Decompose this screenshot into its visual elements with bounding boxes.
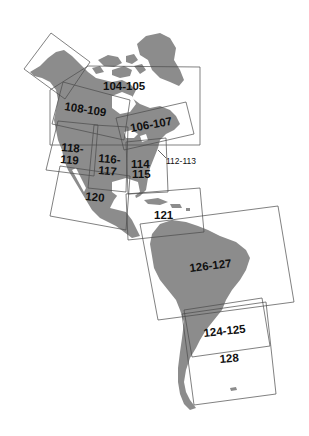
falkland-islands: [230, 387, 237, 391]
greenland-landmass: [137, 33, 184, 86]
label-120[interactable]: 120: [85, 190, 105, 204]
south-america-landmass: [150, 220, 250, 410]
label-112-113[interactable]: 112-113: [166, 156, 196, 166]
label-121[interactable]: 121: [154, 209, 174, 221]
label-128[interactable]: 128: [219, 351, 240, 365]
label-119[interactable]: 119: [60, 153, 80, 167]
label-117[interactable]: 117: [98, 164, 118, 178]
label-115[interactable]: 115: [132, 168, 151, 180]
leader-112-113: [158, 150, 166, 158]
label-104-105[interactable]: 104-105: [103, 80, 146, 92]
index-map: 104-105 108-109 106-107 118- 119 116- 11…: [0, 0, 309, 436]
